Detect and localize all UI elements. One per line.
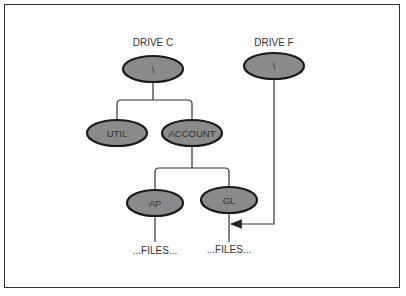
connector-line [155,168,229,190]
node-f-root-label: \ [273,61,276,72]
node-c-root-label: \ [152,64,155,75]
node-util-label: UTIL [107,128,128,139]
node-gl-label: GL [223,195,236,206]
connector-line [117,100,192,121]
node-account-label: ACCOUNT [169,128,216,139]
drive-c-label: DRIVE C [133,37,174,48]
files-gl-label: ...FILES... [207,244,251,255]
node-ap-label: AP [149,198,162,209]
files-ap-label: ...FILES... [133,245,177,256]
drive-f-label: DRIVE F [254,37,293,48]
tree-diagram [0,0,406,296]
